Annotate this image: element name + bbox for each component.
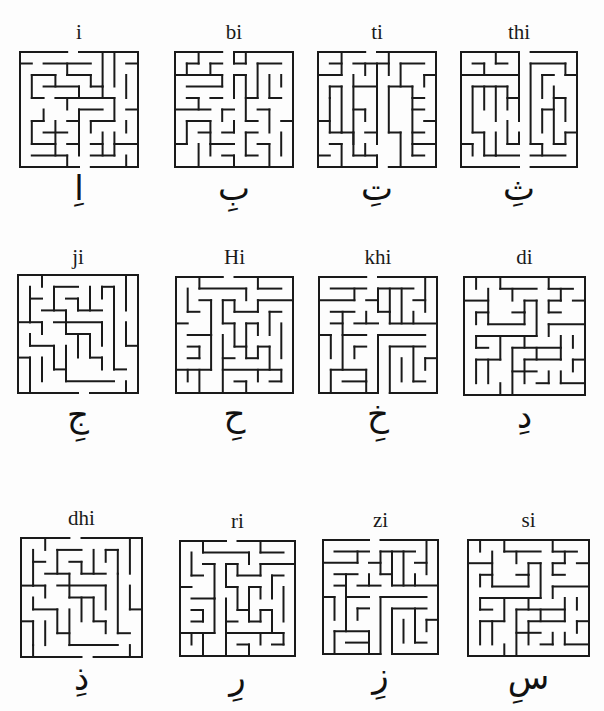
transliteration-label: i	[20, 22, 138, 43]
maze-walls	[176, 277, 293, 393]
maze-cell-thi: thi ثِ	[461, 52, 577, 167]
maze-cell-ti: ti تِ	[318, 52, 436, 167]
transliteration-label: khi	[319, 247, 437, 268]
maze-walls	[461, 52, 577, 167]
arabic-letter: اِ	[20, 171, 138, 205]
maze-cell-hi: Hi حِ	[176, 277, 293, 393]
maze-si[interactable]	[468, 540, 589, 656]
maze-walls	[323, 540, 438, 654]
maze-cell-dhi: dhi ذِ	[21, 538, 142, 657]
transliteration-label: di	[464, 247, 585, 268]
maze-thi[interactable]	[461, 52, 577, 167]
arabic-letter: ثِ	[461, 171, 577, 205]
maze-walls	[180, 541, 295, 656]
arabic-letter: حِ	[176, 397, 293, 431]
arabic-letter: دِ	[464, 399, 585, 433]
arabic-letter: رِ	[180, 660, 295, 694]
transliteration-label: Hi	[176, 247, 293, 268]
maze-walls	[468, 540, 589, 656]
maze-cell-si: si سِ	[468, 540, 589, 656]
maze-dhi[interactable]	[21, 538, 142, 657]
transliteration-label: dhi	[21, 508, 142, 529]
transliteration-label: zi	[323, 510, 438, 531]
maze-walls	[319, 277, 437, 393]
transliteration-label: ti	[318, 22, 436, 43]
arabic-letter: سِ	[468, 660, 589, 694]
maze-khi[interactable]	[319, 277, 437, 393]
maze-ti[interactable]	[318, 52, 436, 167]
transliteration-label: si	[468, 510, 589, 531]
maze-walls	[175, 52, 293, 167]
maze-ri[interactable]	[180, 541, 295, 656]
arabic-letter: تِ	[318, 171, 436, 205]
maze-zi[interactable]	[323, 540, 438, 654]
maze-hi[interactable]	[176, 277, 293, 393]
maze-bi[interactable]	[175, 52, 293, 167]
maze-cell-ri: ri رِ	[180, 541, 295, 656]
maze-cell-zi: zi زِ	[323, 540, 438, 654]
transliteration-label: ji	[18, 247, 138, 268]
maze-cell-ji: ji جِ	[18, 275, 138, 393]
maze-walls	[464, 277, 585, 395]
arabic-letter: جِ	[18, 397, 138, 431]
maze-walls	[318, 52, 436, 167]
transliteration-label: bi	[175, 22, 293, 43]
maze-cell-bi: bi بِ	[175, 52, 293, 167]
arabic-letter: بِ	[175, 171, 293, 205]
arabic-letter: زِ	[323, 658, 438, 692]
maze-cell-khi: khi خِ	[319, 277, 437, 393]
transliteration-label: ri	[180, 511, 295, 532]
maze-ji[interactable]	[18, 275, 138, 393]
arabic-letter: ذِ	[21, 661, 142, 695]
maze-cell-i: i اِ	[20, 52, 138, 167]
maze-walls	[18, 275, 138, 393]
maze-di[interactable]	[464, 277, 585, 395]
maze-walls	[20, 52, 138, 167]
arabic-letter: خِ	[319, 397, 437, 431]
maze-walls	[21, 538, 142, 657]
transliteration-label: thi	[461, 22, 577, 43]
maze-cell-di: di دِ	[464, 277, 585, 395]
maze-i[interactable]	[20, 52, 138, 167]
